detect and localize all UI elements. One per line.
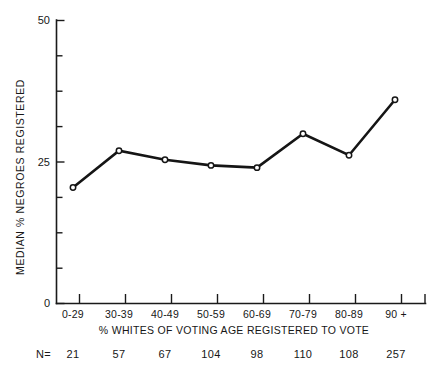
x-category-label-3: 50-59 bbox=[197, 308, 225, 320]
x-category-label-7: 90 + bbox=[385, 308, 407, 320]
sample-size-value-2: 67 bbox=[159, 348, 172, 360]
data-point-marker-3 bbox=[208, 163, 213, 168]
x-category-label-4: 60-69 bbox=[243, 308, 271, 320]
sample-size-value-5: 110 bbox=[294, 348, 312, 360]
data-point-marker-6 bbox=[346, 153, 351, 158]
x-category-label-5: 70-79 bbox=[289, 308, 317, 320]
x-category-label-2: 40-49 bbox=[151, 308, 179, 320]
sample-size-value-7: 257 bbox=[386, 348, 405, 360]
data-point-marker-4 bbox=[254, 165, 259, 170]
y-tick-label-25: 25 bbox=[38, 156, 50, 168]
x-category-label-1: 30-39 bbox=[105, 308, 133, 320]
data-point-marker-7 bbox=[392, 97, 397, 102]
sample-size-value-6: 108 bbox=[339, 348, 358, 360]
sample-size-value-1: 57 bbox=[113, 348, 126, 360]
data-point-marker-0 bbox=[70, 185, 75, 190]
x-category-label-0: 0-29 bbox=[62, 308, 84, 320]
sample-size-value-3: 104 bbox=[201, 348, 220, 360]
sample-size-prefix: N= bbox=[36, 348, 51, 360]
line-chart-svg: 50 25 0 0-29 30-39 40-49 50-59 60-69 70-… bbox=[0, 0, 439, 367]
data-point-marker-2 bbox=[162, 157, 167, 162]
x-category-label-6: 80-89 bbox=[335, 308, 363, 320]
y-axis-title: MEDIAN % NEGROES REGISTERED bbox=[14, 79, 26, 275]
sample-size-value-4: 98 bbox=[251, 348, 264, 360]
y-tick-label-0: 0 bbox=[44, 297, 50, 309]
sample-size-value-0: 21 bbox=[67, 348, 80, 360]
data-point-marker-1 bbox=[116, 148, 121, 153]
y-tick-label-50: 50 bbox=[38, 14, 50, 26]
chart-container: 50 25 0 0-29 30-39 40-49 50-59 60-69 70-… bbox=[0, 0, 439, 367]
x-axis-title: % WHITES OF VOTING AGE REGISTERED TO VOT… bbox=[99, 324, 369, 336]
data-point-marker-5 bbox=[300, 131, 305, 136]
